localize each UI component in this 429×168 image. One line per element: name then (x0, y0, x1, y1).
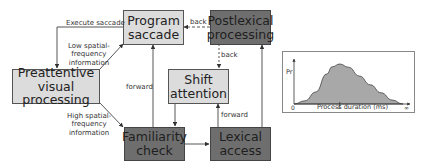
node-label-line1: Lexical (219, 130, 262, 144)
duration-distribution-chart: Pr 0 t ∞ Process duration (ms) (282, 51, 415, 113)
label-high-sf-3: information (67, 129, 111, 137)
node-postlexical-processing: Postlexicalprocessing (210, 10, 271, 45)
node-shift-attention: Shiftattention (168, 69, 229, 104)
node-label-line1: Postlexical (207, 14, 274, 28)
node-label-line2: visual processing (13, 80, 99, 108)
node-lexical-access: Lexicalaccess (210, 127, 271, 161)
label-back-right: back (221, 51, 238, 59)
label-low-sf-3: information (68, 59, 110, 67)
label-high-sf-2: frequency (67, 120, 111, 128)
label-high-sf: High spatial- frequency information (67, 112, 111, 137)
node-preattentive-visual-processing: Preattentivevisual processing (12, 69, 100, 104)
label-execute-saccade: Execute saccade (66, 19, 125, 27)
node-familiarity-check: Familiaritycheck (124, 127, 185, 161)
label-low-sf-2: frequency (68, 50, 110, 58)
node-label-line2: access (219, 144, 262, 158)
node-label-line1: Shift (170, 73, 227, 87)
label-forward-right: forward (221, 111, 248, 119)
x-tick-inf: ∞ (404, 104, 409, 111)
label-high-sf-1: High spatial- (67, 112, 111, 120)
label-back-top: back (190, 18, 207, 26)
node-label-line2: attention (170, 87, 227, 101)
distribution-curve (294, 64, 403, 104)
label-forward-left: forward (126, 83, 153, 91)
node-label-line2: check (122, 144, 187, 158)
node-label-line1: Program (127, 14, 180, 28)
node-program-saccade: Programsaccade (123, 10, 184, 45)
y-axis-label: Pr (286, 69, 292, 77)
label-low-sf: Low spatial- frequency information (68, 42, 110, 67)
x-axis-label: Process duration (ms) (317, 104, 388, 112)
node-label-line1: Preattentive (13, 66, 99, 80)
label-low-sf-1: Low spatial- (68, 42, 110, 50)
x-tick-0: 0 (291, 104, 295, 111)
node-label-line1: Familiarity (122, 130, 187, 144)
node-label-line2: saccade (127, 28, 180, 42)
node-label-line2: processing (207, 28, 274, 42)
